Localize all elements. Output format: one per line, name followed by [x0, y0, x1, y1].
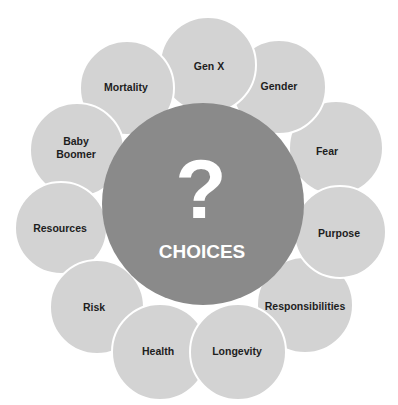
petal-label-baby: Baby — [63, 135, 89, 147]
choices-flower-diagram: ? CHOICES Gen X Gender Fear Purpose Resp… — [0, 0, 398, 405]
question-mark-icon: ? — [175, 142, 226, 236]
petal-label-gen-x: Gen X — [194, 60, 224, 72]
petal-label-gender: Gender — [261, 80, 298, 92]
petal-label-mortality: Mortality — [104, 81, 148, 93]
petal-label-purpose: Purpose — [318, 227, 360, 239]
petal-label-responsibilities: Responsibilities — [265, 300, 346, 312]
center-label: CHOICES — [159, 241, 246, 262]
petal-label-longevity: Longevity — [212, 345, 262, 357]
petal-label-resources: Resources — [33, 222, 87, 234]
petal-label-health: Health — [142, 345, 174, 357]
petal-label-risk: Risk — [83, 301, 105, 313]
petal-label-fear: Fear — [316, 145, 338, 157]
petal-label-boomer: Boomer — [56, 148, 96, 160]
center-circle: ? CHOICES — [102, 103, 304, 305]
